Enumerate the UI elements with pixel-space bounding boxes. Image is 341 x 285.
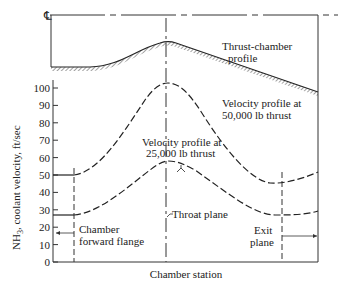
svg-text:profile: profile [228, 52, 257, 64]
thrust-chamber-profile: Thrust-chamber profile [51, 15, 318, 96]
y-tick-label: 100 [34, 82, 51, 94]
svg-text:50,000 lb thrust: 50,000 lb thrust [222, 109, 291, 121]
y-tick-label: 0 [45, 256, 51, 268]
y-tick-label: 20 [39, 221, 51, 233]
y-tick-label: 50 [39, 169, 51, 181]
exit-annotation: Exit plane [250, 224, 317, 248]
x-axis-label: Chamber station [150, 268, 223, 280]
y-tick-label: 60 [39, 152, 51, 164]
series-25000-lb: Velocity profile at 25,000 lb thrust [53, 136, 318, 215]
y-tick-label: 90 [39, 99, 51, 111]
y-tick-label: 70 [39, 134, 51, 146]
svg-text:Chamber: Chamber [79, 223, 120, 235]
svg-text:plane: plane [250, 236, 274, 248]
svg-text:Velocity profile at: Velocity profile at [222, 97, 301, 109]
y-axis-label: NH3, coolant velocity, ft/sec [10, 125, 25, 250]
svg-text:Thrust-chamber: Thrust-chamber [222, 40, 293, 52]
throat-annotation: Throat plane [167, 208, 228, 220]
y-axis: 0102030405060708090100 [34, 80, 59, 268]
centerline: ℄ [43, 9, 338, 23]
svg-text:Exit: Exit [254, 224, 272, 236]
series-50000-lb: Velocity profile at 50,000 lb thrust [53, 83, 318, 183]
y-tick-label: 30 [39, 204, 51, 216]
svg-text:forward flange: forward flange [79, 235, 144, 247]
flange-annotation: Chamber forward flange [56, 223, 144, 247]
svg-text:25,000 lb thrust: 25,000 lb thrust [146, 147, 215, 159]
y-tick-label: 80 [39, 117, 51, 129]
y-tick-label: 40 [39, 186, 51, 198]
svg-text:Throat plane: Throat plane [172, 208, 228, 220]
chart: ℄ Thrust-chamber profile 010203040506070… [0, 0, 341, 285]
y-tick-label: 10 [39, 239, 51, 251]
